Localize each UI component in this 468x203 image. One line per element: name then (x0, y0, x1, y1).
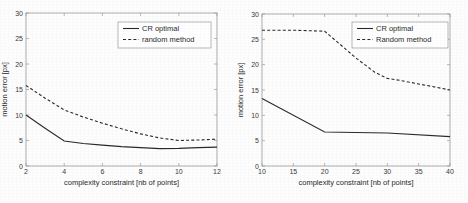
series-line-1 (26, 115, 217, 149)
legend-label-1: CR optimal (376, 24, 413, 33)
y-tick-label: 30 (15, 10, 23, 17)
x-tick-label: 10 (258, 168, 266, 175)
y-tick-label: 5 (255, 137, 259, 144)
y-axis-title: motion error [px] (0, 62, 9, 117)
legend-label-1: CR optimal (142, 24, 179, 33)
series-line-1 (262, 99, 450, 137)
x-tick-label: 40 (446, 168, 454, 175)
x-tick-label: 2 (24, 168, 28, 175)
legend-label-2: Random method (376, 35, 431, 44)
y-tick-label: 5 (19, 137, 23, 144)
y-tick-label: 25 (251, 36, 259, 43)
x-tick-label: 8 (139, 168, 143, 175)
x-axis-title: complexity constraint [nb of points] (298, 178, 413, 187)
x-tick-label: 25 (352, 168, 360, 175)
y-tick-label: 10 (251, 112, 259, 119)
y-axis-title: motion error [px] (236, 63, 245, 118)
x-tick-label: 12 (213, 168, 221, 175)
y-tick-label: 30 (251, 11, 259, 18)
y-tick-label: 15 (15, 86, 23, 93)
legend-label-2: random method (142, 35, 195, 44)
chart-panel-left: 24681012051015202530complexity constrain… (0, 0, 234, 203)
y-tick-label: 20 (251, 61, 259, 68)
series-line-2 (26, 85, 217, 140)
x-axis-title: complexity constraint [nb of points] (64, 178, 179, 187)
x-tick-label: 35 (415, 168, 423, 175)
x-tick-label: 6 (100, 168, 104, 175)
x-tick-label: 30 (383, 168, 391, 175)
y-tick-label: 25 (15, 35, 23, 42)
left-chart-canvas: 24681012051015202530complexity constrain… (0, 0, 234, 203)
x-tick-label: 4 (62, 168, 66, 175)
x-tick-label: 10 (175, 168, 183, 175)
right-chart-canvas: 10152025303540051015202530complexity con… (234, 0, 468, 203)
y-tick-label: 0 (255, 163, 259, 170)
y-tick-label: 0 (19, 163, 23, 170)
y-tick-label: 20 (15, 61, 23, 68)
chart-panel-right: 10152025303540051015202530complexity con… (234, 0, 468, 203)
y-tick-label: 15 (251, 87, 259, 94)
y-tick-label: 10 (15, 112, 23, 119)
figure-two-panel-line-charts: 24681012051015202530complexity constrain… (0, 0, 468, 203)
x-tick-label: 15 (289, 168, 297, 175)
x-tick-label: 20 (321, 168, 329, 175)
